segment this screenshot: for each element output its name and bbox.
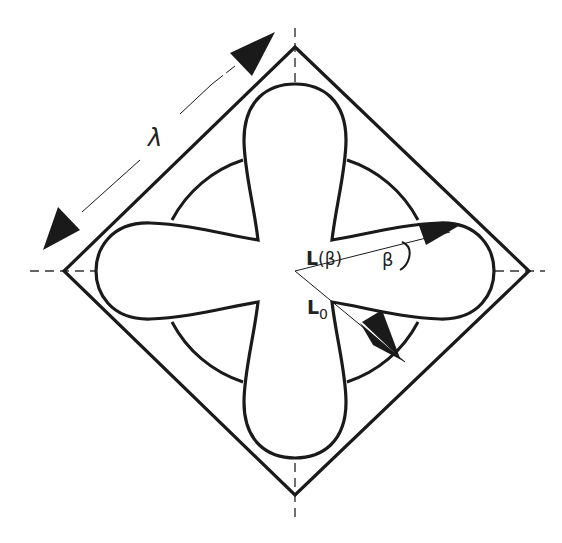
- arrowhead-upper-right: [230, 32, 275, 76]
- lambda-label: λ: [146, 124, 162, 152]
- arrowhead-lower-left: [43, 207, 80, 250]
- beta-label: β: [382, 249, 394, 270]
- diagram-canvas: λ L(β) β L0: [0, 0, 562, 543]
- l-beta-label: L(β): [306, 247, 342, 269]
- diagram-svg: λ L(β) β L0: [0, 0, 562, 543]
